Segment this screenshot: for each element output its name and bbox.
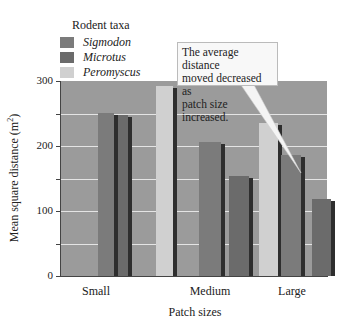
callout-line: patch size increased. xyxy=(182,98,273,124)
callout-line: moved decreased as xyxy=(182,72,273,98)
callout-pointer xyxy=(0,0,342,326)
annotation-callout: The average distance moved decreased as … xyxy=(177,42,278,86)
callout-line: The average distance xyxy=(182,46,273,72)
